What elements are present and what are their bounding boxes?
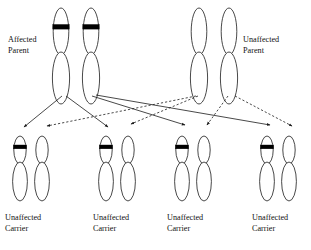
chromosome-p1-chr-b <box>82 8 99 104</box>
offspring-2-label-line1: Unaffected <box>93 213 129 222</box>
offspring-3-label-line1: Unaffected <box>167 213 203 222</box>
offspring-2-label-line2: Carrier <box>93 224 116 233</box>
chromosome-o4-chr-a <box>260 136 275 201</box>
chromosome-o2-chr-a <box>99 136 114 201</box>
disease-allele-band <box>99 145 112 149</box>
affected-parent-group: Affected Parent <box>8 8 100 104</box>
chromosome-o4-chr-b <box>282 136 297 201</box>
disease-allele-band <box>175 145 188 149</box>
chromosome-o1-chr-a <box>13 136 28 201</box>
offspring-1-group: Unaffected Carrier <box>5 136 49 233</box>
line-unaffected-to-o2 <box>131 96 198 124</box>
chromosome-o1-chr-b <box>35 136 50 201</box>
disease-allele-band <box>53 25 69 30</box>
offspring-2-group: Unaffected Carrier <box>93 136 135 233</box>
offspring-1-label-line1: Unaffected <box>5 213 41 222</box>
line-unaffected-to-o3 <box>207 96 228 125</box>
chromosome-o3-chr-a <box>175 136 190 201</box>
affected-parent-label-line1: Affected <box>8 35 37 44</box>
disease-allele-band <box>83 25 99 30</box>
line-unaffected-to-o4 <box>235 96 292 126</box>
chromosome-o3-chr-b <box>197 136 212 201</box>
disease-allele-band <box>260 145 273 149</box>
unaffected-parent-label-line1: Unaffected <box>243 35 279 44</box>
offspring-4-label-line2: Carrier <box>252 224 275 233</box>
chromosome-segregation-canvas: Affected Parent Unaffected Parent <box>0 0 311 250</box>
chromosome-p1-chr-a <box>52 8 69 104</box>
offspring-4-group: Unaffected Carrier <box>252 136 296 233</box>
affected-parent-label-line2: Parent <box>8 46 30 55</box>
chromosome-o2-chr-b <box>121 136 136 201</box>
genetics-inheritance-diagram: Affected Parent Unaffected Parent <box>0 0 311 250</box>
offspring-3-label-line2: Carrier <box>167 224 190 233</box>
offspring-4-label-line1: Unaffected <box>252 213 288 222</box>
chromosome-p2-chr-a <box>190 8 207 104</box>
disease-allele-band <box>13 145 26 149</box>
offspring-3-group: Unaffected Carrier <box>167 136 211 233</box>
unaffected-parent-label-line2: Parent <box>243 46 265 55</box>
chromosome-p2-chr-b <box>220 8 237 104</box>
unaffected-parent-group: Unaffected Parent <box>190 8 279 104</box>
offspring-1-label-line2: Carrier <box>5 224 28 233</box>
line-affected-to-o1 <box>24 96 62 127</box>
line-affected-to-o4 <box>96 95 270 125</box>
